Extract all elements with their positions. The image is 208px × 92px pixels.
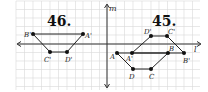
- diagram-canvas: m l 46. B' A' C' D' 45. A A' B: [0, 0, 208, 92]
- label-a-prime: A': [125, 55, 133, 63]
- label-c-prime: C': [44, 56, 51, 64]
- axis-vertical-m: m: [105, 4, 118, 88]
- point-d: [131, 67, 135, 71]
- point-c: [149, 67, 153, 71]
- point-b-prime: [182, 51, 186, 55]
- label-b-prime: B': [182, 57, 190, 65]
- label-d-prime: D': [143, 28, 152, 36]
- figure-45: 45. A A' B B' D C D' C': [109, 13, 190, 81]
- point-a: [115, 51, 119, 55]
- label-a-prime: A': [84, 32, 92, 40]
- axis-label-m: m: [109, 4, 117, 13]
- point-c-prime: [48, 50, 52, 54]
- label-d-prime: D': [64, 56, 73, 64]
- label-a: A: [109, 53, 115, 61]
- figure-46: 46. B' A' C' D': [23, 13, 92, 64]
- point-d-prime: [65, 50, 69, 54]
- label-d: D: [128, 73, 135, 81]
- axis-label-l: l: [194, 45, 197, 54]
- label-b: B: [168, 45, 174, 53]
- figure-title-46: 46.: [47, 13, 71, 29]
- label-c: C: [149, 73, 155, 81]
- point-b-prime: [31, 32, 35, 36]
- figure-title-45: 45.: [152, 13, 176, 29]
- label-c-prime: C': [168, 28, 175, 36]
- label-b-prime: B': [23, 31, 31, 39]
